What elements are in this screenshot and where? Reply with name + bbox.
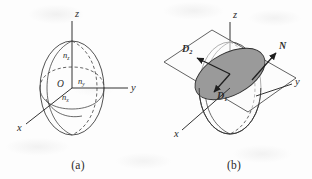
- vector-n-label: N: [278, 40, 287, 51]
- figure-root: z y x O nz ny nx (a): [0, 0, 312, 179]
- axis-label-x: x: [16, 122, 22, 133]
- origin-label-a: O: [57, 79, 64, 89]
- panel-a-drawing: z y x O nz ny nx: [0, 0, 156, 179]
- axis-label-z-b: z: [232, 9, 237, 20]
- n-z-label: nz: [63, 50, 70, 61]
- axis-label-x-b: x: [173, 128, 179, 139]
- caption-b: (b): [156, 159, 312, 171]
- axis-label-y-b: y: [294, 76, 300, 87]
- axis-label-y: y: [130, 82, 136, 93]
- axis-label-z: z: [74, 8, 79, 19]
- panel-b-drawing: z y x D2 D1 N: [156, 0, 312, 179]
- caption-a: (a): [0, 159, 156, 171]
- n-y-label: ny: [78, 76, 85, 87]
- panel-a-index-ellipsoid: z y x O nz ny nx (a): [0, 0, 156, 179]
- panel-b-cross-section: z y x D2 D1 N (b): [156, 0, 312, 179]
- n-x-label: nx: [62, 92, 69, 103]
